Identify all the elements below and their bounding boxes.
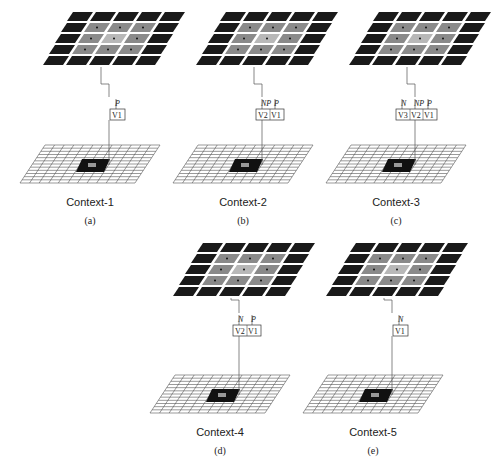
cell-dot xyxy=(130,49,132,51)
cell-dot xyxy=(249,27,251,29)
map-cell xyxy=(418,287,444,296)
cell-dot xyxy=(113,38,115,40)
connection-wire xyxy=(231,298,239,313)
target-pixel xyxy=(241,163,249,167)
map-cell xyxy=(349,287,375,296)
unit-label: V1 xyxy=(248,327,258,336)
panel-sub-label: (e) xyxy=(367,445,378,457)
map-cell xyxy=(396,12,422,21)
cell-dot xyxy=(220,269,222,271)
map-cell xyxy=(459,23,485,32)
cell-dot xyxy=(272,258,274,260)
map-cell xyxy=(419,12,445,21)
map-cell xyxy=(326,287,352,296)
cell-dot xyxy=(243,38,245,40)
unit-label: V2 xyxy=(235,327,245,336)
map-cell xyxy=(419,243,445,252)
map-cell xyxy=(141,45,167,54)
panel-b: V2V1NPPContext-2(b) xyxy=(173,12,338,227)
cell-dot xyxy=(237,280,239,282)
map-cell xyxy=(300,34,326,43)
map-cell xyxy=(312,12,338,21)
map-cell xyxy=(355,45,381,54)
cell-dot xyxy=(272,27,274,29)
unit-input-label: P xyxy=(273,99,279,108)
cell-dot xyxy=(396,269,398,271)
map-cell xyxy=(453,34,479,43)
connection-wire xyxy=(407,67,415,97)
map-cell xyxy=(159,12,185,21)
map-cell xyxy=(266,243,292,252)
map-cell xyxy=(49,45,75,54)
map-cell xyxy=(208,34,234,43)
unit-input-label: N xyxy=(237,315,244,324)
connection-wire xyxy=(254,67,262,97)
map-cell xyxy=(271,276,297,285)
cell-dot xyxy=(96,27,98,29)
cell-dot xyxy=(373,269,375,271)
map-cell xyxy=(306,23,332,32)
cell-dot xyxy=(402,27,404,29)
map-cell xyxy=(349,56,375,65)
target-pixel xyxy=(218,393,226,397)
map-cell xyxy=(185,265,211,274)
map-cell xyxy=(196,56,222,65)
unit-input-label: N xyxy=(397,315,404,324)
map-cell xyxy=(441,56,467,65)
map-cell xyxy=(277,265,303,274)
map-cell xyxy=(136,12,162,21)
cell-dot xyxy=(295,27,297,29)
map-cell xyxy=(395,287,421,296)
cell-dot xyxy=(390,280,392,282)
target-pixel xyxy=(394,163,402,167)
cell-dot xyxy=(260,49,262,51)
context-label: Context-3 xyxy=(372,196,420,208)
unit-label: V1 xyxy=(395,327,405,336)
cell-dot xyxy=(119,27,121,29)
unit-label: V1 xyxy=(112,111,122,120)
cell-dot xyxy=(260,280,262,282)
map-cell xyxy=(373,12,399,21)
map-cell xyxy=(173,287,199,296)
cell-dot xyxy=(413,280,415,282)
cell-dot xyxy=(413,49,415,51)
map-cell xyxy=(89,56,115,65)
cell-dot xyxy=(283,49,285,51)
map-cell xyxy=(153,23,179,32)
map-cell xyxy=(214,23,240,32)
map-cell xyxy=(242,56,268,65)
map-cell xyxy=(243,243,269,252)
cell-dot xyxy=(214,280,216,282)
map-cell xyxy=(202,45,228,54)
cell-dot xyxy=(90,38,92,40)
panel-sub-label: (d) xyxy=(214,445,226,457)
panel-sub-label: (a) xyxy=(84,215,95,227)
map-cell xyxy=(265,56,291,65)
map-cell xyxy=(344,254,370,263)
cell-dot xyxy=(436,49,438,51)
target-pixel xyxy=(371,393,379,397)
map-cell xyxy=(294,45,320,54)
map-cell xyxy=(373,243,399,252)
context-label: Context-4 xyxy=(196,426,244,438)
map-cell xyxy=(242,287,268,296)
panel-sub-label: (b) xyxy=(237,215,249,227)
cell-dot xyxy=(226,258,228,260)
cell-dot xyxy=(289,38,291,40)
map-cell xyxy=(283,254,309,263)
map-cell xyxy=(219,56,245,65)
cell-dot xyxy=(367,280,369,282)
cell-dot xyxy=(266,38,268,40)
connection-wire xyxy=(101,67,109,97)
cell-dot xyxy=(442,38,444,40)
cell-dot xyxy=(237,49,239,51)
cell-dot xyxy=(243,269,245,271)
unit-label: V2 xyxy=(258,111,268,120)
cell-dot xyxy=(425,27,427,29)
cell-dot xyxy=(396,38,398,40)
cell-dot xyxy=(249,258,251,260)
map-cell xyxy=(430,265,456,274)
map-cell xyxy=(191,254,217,263)
map-cell xyxy=(265,287,291,296)
map-cell xyxy=(338,265,364,274)
